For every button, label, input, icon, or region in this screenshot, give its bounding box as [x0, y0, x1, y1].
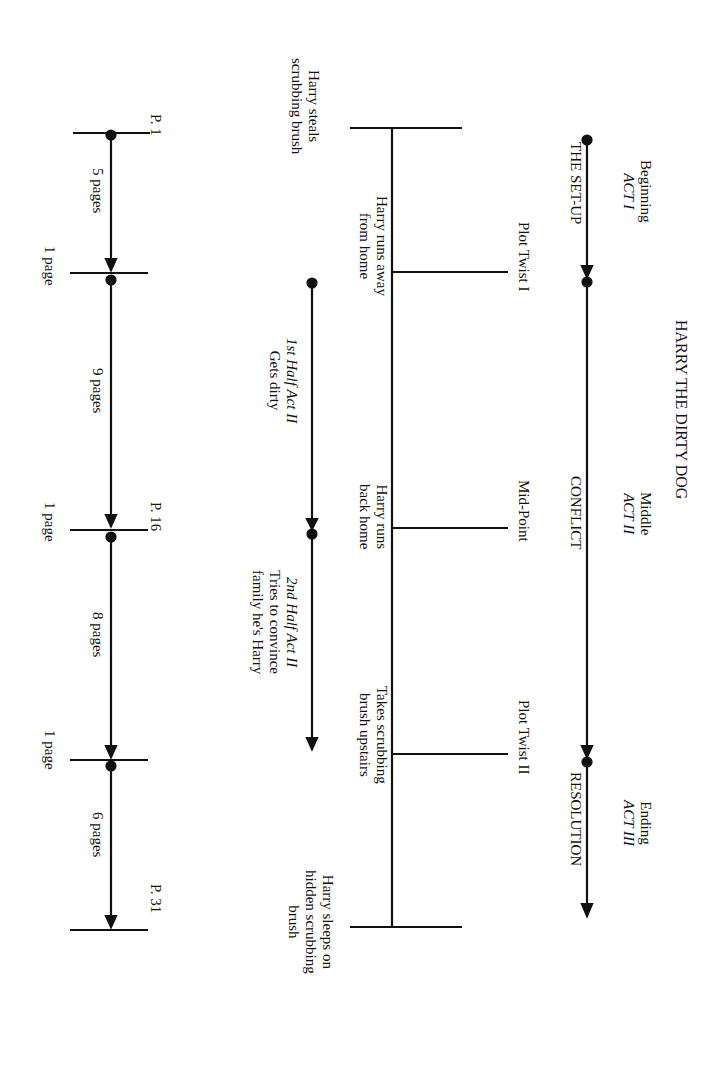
segment-first-half-pages: 9 pages — [89, 368, 106, 413]
page-marker-start: P. 1 — [147, 114, 164, 136]
event-runs-away: Harry runs away from home — [356, 196, 390, 296]
page-timeline — [70, 131, 150, 931]
diagram-title: HARRY THE DIRTY DOG — [673, 320, 690, 499]
event-start: Harry steals scrubbing brush — [288, 58, 322, 154]
event-end: Harry sleeps on hidden scrubbing brush — [285, 870, 336, 974]
turning-point-mid-point: Mid-Point — [515, 480, 532, 542]
event-runs-back: Harry runs back home — [356, 484, 390, 549]
transition-1: 1 page — [41, 246, 58, 286]
act2-second-half: 2nd Half Act II Tries to convince family… — [249, 570, 300, 674]
segment-resolution-pages: 6 pages — [89, 812, 106, 857]
event-takes-brush: Takes scrubbing brush upstairs — [356, 686, 390, 784]
act2-timeline — [307, 279, 317, 750]
turning-point-plot-twist-2: Plot Twist II — [515, 700, 532, 775]
page-marker-end: P. 31 — [147, 884, 164, 913]
diagram-lines — [0, 0, 702, 1065]
act-3-header: Ending ACT III — [620, 800, 654, 846]
transition-3: 1 page — [41, 730, 58, 770]
act-3-phase: RESOLUTION — [567, 772, 584, 866]
segment-setup-pages: 5 pages — [89, 168, 106, 213]
act-1-phase: THE SET-UP — [567, 142, 584, 224]
transition-2: 1 page — [41, 502, 58, 542]
turning-point-plot-twist-1: Plot Twist I — [515, 222, 532, 292]
page-marker-mid: P. 16 — [147, 502, 164, 531]
act-1-header: Beginning ACT I — [620, 160, 654, 223]
act-2-header: Middle ACT II — [620, 492, 654, 535]
act2-first-half: 1st Half Act II Gets dirty — [266, 338, 300, 423]
segment-second-half-pages: 8 pages — [89, 612, 106, 657]
act-2-phase: CONFLICT — [567, 476, 584, 549]
